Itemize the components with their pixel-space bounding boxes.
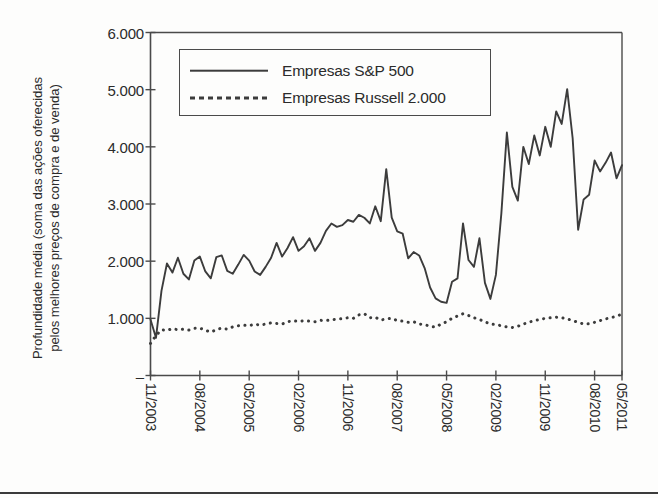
legend-swatch-dotted-icon	[190, 92, 268, 104]
legend-label-1: Empresas Russell 2.000	[282, 89, 446, 107]
legend-item-1: Empresas Russell 2.000	[190, 84, 480, 111]
chart-legend: Empresas S&P 500 Empresas Russell 2.000	[179, 49, 491, 116]
legend-item-0: Empresas S&P 500	[190, 57, 480, 84]
chart-figure: Profundidade média (soma das ações ofere…	[0, 0, 658, 498]
legend-label-0: Empresas S&P 500	[282, 62, 414, 80]
page-divider-rule	[0, 492, 658, 494]
series-line-1	[151, 314, 623, 344]
legend-swatch-solid-icon	[190, 65, 268, 77]
series-line-0	[151, 89, 623, 338]
